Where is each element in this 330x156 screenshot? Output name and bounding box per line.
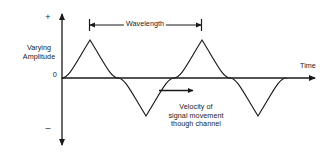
x-axis-title: Time [300, 62, 316, 71]
wavelength-annotation-label: Wavelength [124, 20, 166, 29]
y-axis-title: Varying Amplitude [23, 44, 55, 61]
y-axis-negative-marker: – [45, 124, 50, 133]
wave-diagram: + – 0 Varying Amplitude Time Wavelength … [0, 0, 330, 156]
velocity-annotation-label: Velocity of signal movement though chann… [168, 103, 223, 129]
y-axis-title-line2: Amplitude [23, 53, 55, 62]
y-axis-zero-marker: 0 [53, 71, 57, 80]
velocity-annotation-line3: though channel [168, 120, 223, 129]
y-axis-positive-marker: + [45, 13, 50, 22]
